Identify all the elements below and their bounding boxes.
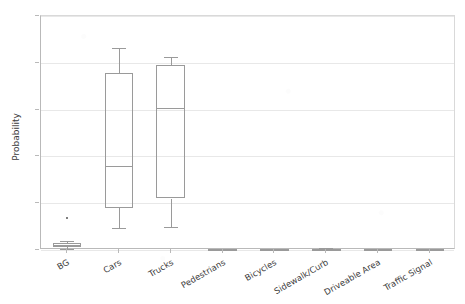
y-axis-label: Probability: [11, 77, 21, 197]
x-tick-mark: [118, 249, 119, 253]
x-tick-mark: [66, 249, 67, 253]
x-tick-mark: [377, 249, 378, 253]
y-tick-mark: [35, 109, 39, 110]
y-tick-mark: [35, 15, 39, 16]
x-tick-mark: [273, 249, 274, 253]
boxplot-figure: Probability 0.00.20.40.60.81.0 BGCarsTru…: [0, 0, 465, 304]
x-tick-mark: [170, 249, 171, 253]
x-tick-mark: [222, 249, 223, 253]
y-axis: Probability 0.00.20.40.60.81.0 BGCarsTru…: [0, 0, 465, 304]
x-tick-mark: [325, 249, 326, 253]
x-tick-mark: [429, 249, 430, 253]
y-tick-mark: [35, 202, 39, 203]
y-tick-mark: [35, 155, 39, 156]
y-tick-mark: [35, 249, 39, 250]
y-tick-mark: [35, 62, 39, 63]
